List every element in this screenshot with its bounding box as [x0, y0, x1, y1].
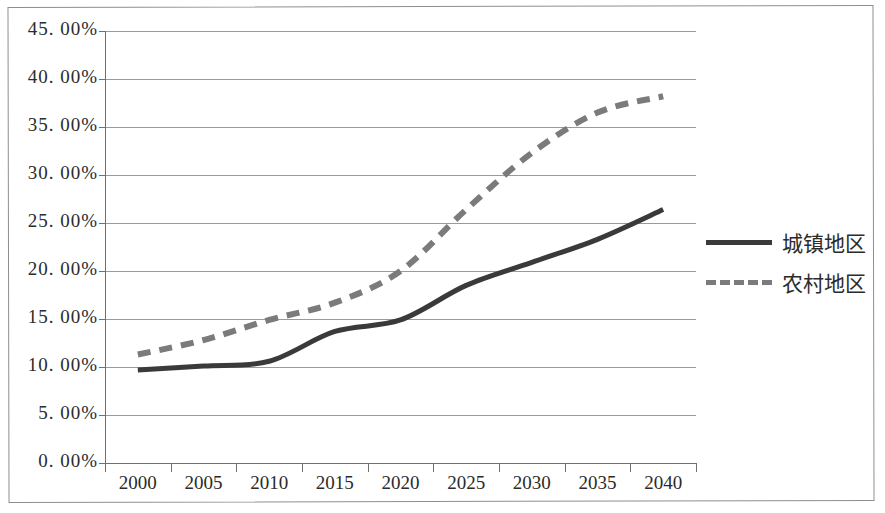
x-axis-tick	[433, 463, 434, 472]
x-axis-tick-label: 2025	[431, 472, 501, 494]
x-axis-tick	[302, 463, 303, 472]
y-axis-tick-label: 20. 00%	[6, 258, 98, 280]
series-line-rural	[138, 96, 663, 354]
x-axis-tick-label: 2010	[234, 472, 304, 494]
legend-key-rural-icon	[706, 275, 772, 289]
x-axis-tick-label: 2035	[563, 472, 633, 494]
x-axis-tick	[171, 463, 172, 472]
legend-label-rural: 农村地区	[782, 267, 866, 297]
data-series	[105, 31, 696, 463]
x-axis-tick	[368, 463, 369, 472]
legend-label-urban: 城镇地区	[782, 227, 866, 257]
x-axis-tick-label: 2015	[300, 472, 370, 494]
x-axis-line	[105, 463, 697, 464]
y-axis-tick-label: 10. 00%	[6, 354, 98, 376]
chart-legend: 城镇地区 农村地区	[706, 222, 878, 302]
series-line-urban	[138, 210, 663, 370]
y-axis-tick-label: 45. 00%	[6, 18, 98, 40]
y-axis-tick-label: 30. 00%	[6, 162, 98, 184]
y-axis-tick-label: 25. 00%	[6, 210, 98, 232]
y-axis-tick-label: 35. 00%	[6, 114, 98, 136]
chart-figure: 45. 00%40. 00%35. 00%30. 00%25. 00%20. 0…	[0, 0, 885, 513]
legend-item-urban: 城镇地区	[706, 222, 878, 262]
x-axis-tick	[105, 463, 106, 472]
y-axis-tick-label: 15. 00%	[6, 306, 98, 328]
x-axis-tick-label: 2040	[628, 472, 698, 494]
x-axis-labels: 200020052010201520202025203020352040	[105, 472, 697, 504]
legend-item-rural: 农村地区	[706, 262, 878, 302]
y-axis-tick-label: 5. 00%	[6, 402, 98, 424]
x-axis-tick-label: 2030	[497, 472, 567, 494]
x-axis-tick	[499, 463, 500, 472]
y-axis-labels: 45. 00%40. 00%35. 00%30. 00%25. 00%20. 0…	[0, 31, 98, 464]
x-axis-tick	[236, 463, 237, 472]
x-axis-tick-label: 2000	[103, 472, 173, 494]
x-axis-tick-label: 2005	[169, 472, 239, 494]
y-axis-tick-label: 0. 00%	[6, 450, 98, 472]
y-axis-tick-label: 40. 00%	[6, 66, 98, 88]
x-axis-tick	[565, 463, 566, 472]
x-axis-tick	[696, 463, 697, 472]
legend-key-urban-icon	[706, 235, 772, 249]
x-axis-tick	[630, 463, 631, 472]
x-axis-tick-label: 2020	[366, 472, 436, 494]
